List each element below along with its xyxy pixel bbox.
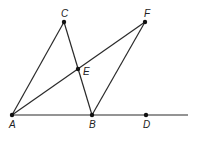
point-d <box>144 113 148 117</box>
label-c: C <box>61 8 69 19</box>
label-f: F <box>144 8 151 19</box>
label-e: E <box>83 66 90 77</box>
segment-fb <box>92 22 145 115</box>
point-b <box>90 113 94 117</box>
label-d: D <box>143 119 150 130</box>
point-a <box>10 113 14 117</box>
point-c <box>62 20 66 24</box>
point-e <box>76 67 80 71</box>
segments <box>12 22 188 115</box>
label-b: B <box>89 119 96 130</box>
geometry-diagram: ABDCFE <box>0 0 197 144</box>
label-a: A <box>8 119 16 130</box>
segment-ac <box>12 22 64 115</box>
point-f <box>143 20 147 24</box>
